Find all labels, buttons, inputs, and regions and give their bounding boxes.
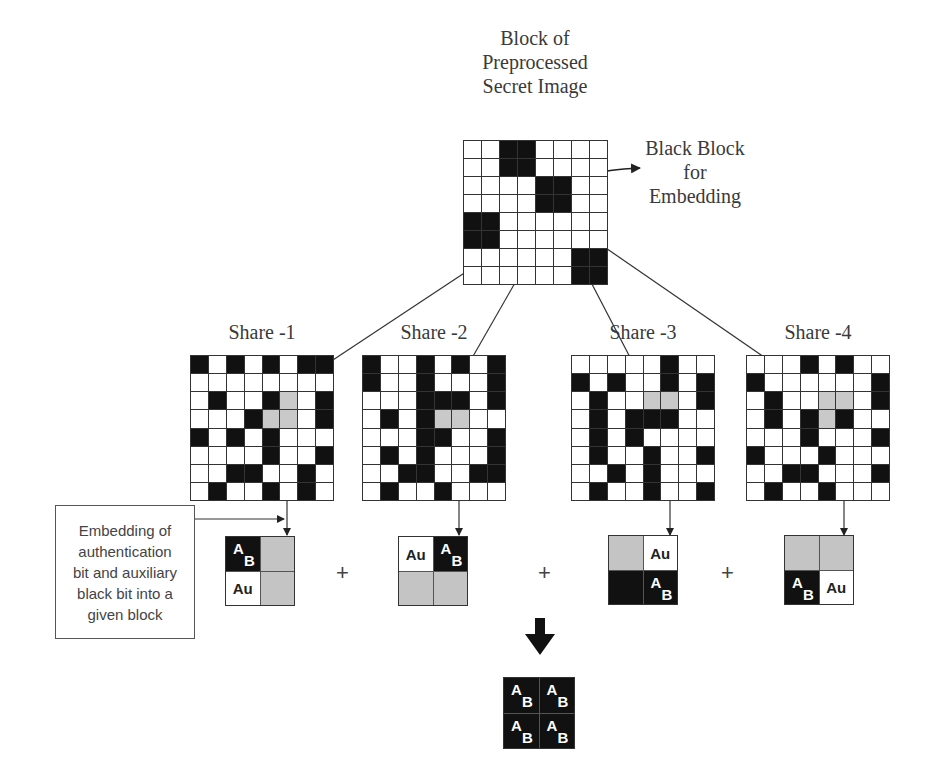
white-pixel — [626, 447, 643, 464]
black-pixel — [482, 231, 499, 248]
white-pixel — [783, 410, 800, 427]
black-pixel — [191, 429, 208, 446]
white-pixel — [452, 447, 469, 464]
white-pixel — [590, 159, 607, 176]
auth-mark-a: A — [651, 574, 662, 591]
white-pixel — [536, 231, 553, 248]
white-pixel — [679, 483, 696, 500]
white-pixel — [470, 447, 487, 464]
black-pixel — [263, 447, 280, 464]
white-pixel — [801, 392, 818, 409]
black-pixel — [227, 429, 244, 446]
white-pixel — [854, 392, 871, 409]
annotation-line: Embedding of — [56, 520, 194, 541]
white-pixel — [554, 267, 571, 284]
white-pixel — [518, 195, 535, 212]
white-pixel — [518, 177, 535, 194]
black-pixel — [417, 356, 434, 373]
white-pixel — [661, 429, 678, 446]
white-pixel — [518, 267, 535, 284]
white-pixel — [872, 447, 889, 464]
white-pixel — [836, 483, 853, 500]
black-pixel — [316, 356, 333, 373]
sub-block — [609, 536, 643, 570]
black-pixel — [801, 356, 818, 373]
auth-mark-a: A — [792, 574, 803, 591]
white-pixel — [747, 483, 764, 500]
auth-mark-a: A — [233, 540, 244, 557]
white-pixel — [482, 159, 499, 176]
black-pixel — [417, 392, 434, 409]
black-pixel — [536, 195, 553, 212]
black-pixel — [819, 483, 836, 500]
black-block-label: Black Block for Embedding — [635, 136, 755, 208]
sub-block: AB — [226, 537, 260, 571]
embedding-annotation-box: Embedding of authentication bit and auxi… — [55, 505, 195, 639]
black-pixel — [381, 410, 398, 427]
black-pixel — [435, 392, 452, 409]
white-pixel — [747, 465, 764, 482]
white-pixel — [765, 429, 782, 446]
white-pixel — [209, 374, 226, 391]
white-pixel — [572, 141, 589, 158]
white-pixel — [819, 465, 836, 482]
black-pixel — [417, 465, 434, 482]
white-pixel — [470, 429, 487, 446]
black-pixel — [661, 356, 678, 373]
black-pixel — [836, 410, 853, 427]
black-pixel — [263, 356, 280, 373]
sub-block: Au — [226, 572, 260, 606]
white-pixel — [470, 483, 487, 500]
white-pixel — [500, 195, 517, 212]
gray-embed-pixel — [819, 392, 836, 409]
black-pixel — [765, 392, 782, 409]
white-pixel — [280, 429, 297, 446]
black-pixel — [872, 374, 889, 391]
auxiliary-black-mark-b: B — [452, 552, 463, 569]
white-pixel — [298, 392, 315, 409]
black-pixel — [263, 429, 280, 446]
white-pixel — [626, 374, 643, 391]
share-3-label: Share -3 — [571, 320, 715, 344]
white-pixel — [209, 410, 226, 427]
auth-mark-a: A — [511, 681, 522, 698]
white-pixel — [819, 374, 836, 391]
black-pixel — [697, 392, 714, 409]
black-pixel — [363, 374, 380, 391]
white-pixel — [363, 410, 380, 427]
white-pixel — [191, 392, 208, 409]
white-pixel — [554, 249, 571, 266]
white-pixel — [399, 356, 416, 373]
black-pixel — [747, 447, 764, 464]
sub-block: AB — [644, 571, 678, 605]
black-pixel — [644, 465, 661, 482]
black-pixel — [435, 483, 452, 500]
black-pixel — [263, 392, 280, 409]
white-pixel — [854, 410, 871, 427]
white-pixel — [227, 447, 244, 464]
white-pixel — [783, 483, 800, 500]
white-pixel — [316, 483, 333, 500]
auxiliary-black-mark-b: B — [244, 552, 255, 569]
sub-block: Au — [820, 571, 854, 605]
plus-operator: + — [721, 560, 734, 586]
white-pixel — [298, 374, 315, 391]
black-pixel — [572, 267, 589, 284]
white-pixel — [854, 465, 871, 482]
black-pixel — [872, 392, 889, 409]
black-pixel — [697, 483, 714, 500]
white-pixel — [245, 374, 262, 391]
black-pixel — [697, 447, 714, 464]
white-pixel — [801, 447, 818, 464]
auxiliary-black-mark-b: B — [803, 586, 814, 603]
annotation-line: given block — [56, 604, 194, 625]
white-pixel — [280, 447, 297, 464]
white-pixel — [590, 177, 607, 194]
black-pixel — [572, 374, 589, 391]
white-pixel — [452, 374, 469, 391]
black-pixel — [590, 429, 607, 446]
annotation-line: bit and auxiliary — [56, 562, 194, 583]
white-pixel — [191, 447, 208, 464]
white-pixel — [399, 483, 416, 500]
white-pixel — [697, 410, 714, 427]
